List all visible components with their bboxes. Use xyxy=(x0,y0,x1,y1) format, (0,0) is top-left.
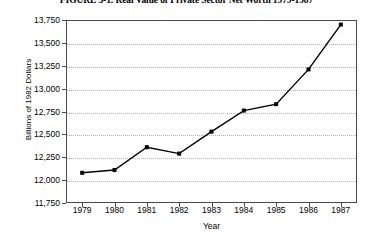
gridline xyxy=(67,181,356,182)
gridline xyxy=(67,44,356,45)
x-axis-tick-label: 1987 xyxy=(321,206,361,215)
y-axis-tick-label: 11,750 xyxy=(12,199,60,208)
x-axis-tick-mark xyxy=(212,203,213,207)
x-axis-title: Year xyxy=(66,221,357,231)
gridline xyxy=(67,113,356,114)
y-axis-tick-label: 12,500 xyxy=(12,130,60,139)
x-axis-tick-mark xyxy=(82,203,83,207)
chart-title: FIGURE 5-1. Real Value of Private Sector… xyxy=(0,0,373,5)
x-axis-tick-mark xyxy=(276,203,277,207)
y-axis-tick-label: 13,750 xyxy=(12,16,60,25)
plot-area xyxy=(66,20,357,203)
y-axis-tick-label: 12,000 xyxy=(12,176,60,185)
y-axis-tick-label: 13,500 xyxy=(12,39,60,48)
y-axis-tick-label: 12,250 xyxy=(12,153,60,162)
x-axis-tick-mark xyxy=(309,203,310,207)
gridline xyxy=(67,90,356,91)
gridline xyxy=(67,158,356,159)
gridline xyxy=(67,67,356,68)
figure-chart: FIGURE 5-1. Real Value of Private Sector… xyxy=(0,0,373,239)
x-axis-tick-mark xyxy=(179,203,180,207)
y-axis-tick-label: 12,750 xyxy=(12,108,60,117)
gridline xyxy=(67,135,356,136)
x-axis-tick-mark xyxy=(147,203,148,207)
x-axis-tick-mark xyxy=(341,203,342,207)
y-axis-tick-mark xyxy=(62,203,66,204)
y-axis-tick-label: 13,000 xyxy=(12,85,60,94)
x-axis-tick-mark xyxy=(244,203,245,207)
y-axis-tick-label: 13,250 xyxy=(12,62,60,71)
x-axis-tick-mark xyxy=(115,203,116,207)
